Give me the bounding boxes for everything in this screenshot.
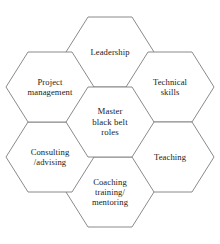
hexagon-diagram: Leadership Technical skills Teaching Coa…: [0, 0, 220, 244]
hexagon-group: [6, 17, 214, 227]
diagram-canvas: [0, 0, 220, 244]
